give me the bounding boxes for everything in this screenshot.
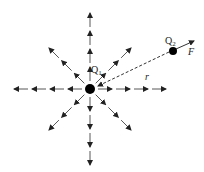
field-line-segment xyxy=(74,95,84,105)
field-line-segment xyxy=(96,95,106,105)
label-q2: Q2 xyxy=(165,35,176,48)
label-force: F xyxy=(187,46,195,57)
field-line-segment xyxy=(108,61,118,71)
charge-q2 xyxy=(169,47,177,55)
field-line-segment xyxy=(121,120,131,130)
label-distance: r xyxy=(145,71,149,82)
field-diagram: Q1 Q2 F r xyxy=(0,0,204,172)
field-line-segment xyxy=(62,61,72,71)
field-line-segment xyxy=(121,48,131,58)
field-line-segment xyxy=(108,107,118,117)
label-q1: Q1 xyxy=(91,64,102,77)
field-line-segment xyxy=(62,107,72,117)
charge-q1 xyxy=(85,84,95,94)
diagram-canvas: Q1 Q2 F r xyxy=(0,0,204,172)
field-line-segment xyxy=(49,120,59,130)
distance-line xyxy=(98,52,169,86)
field-line-segment xyxy=(49,48,59,58)
field-line-segment xyxy=(74,73,84,83)
